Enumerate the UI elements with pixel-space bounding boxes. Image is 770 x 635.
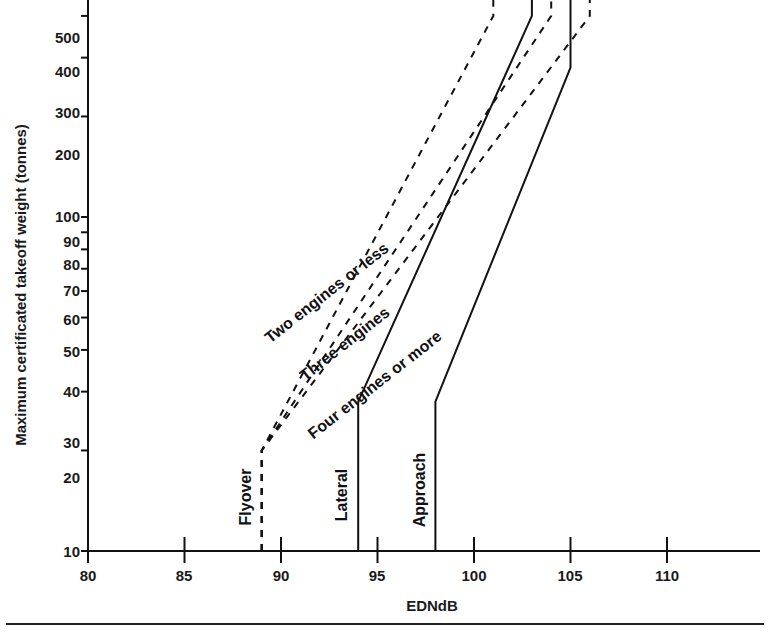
x-tick-label-110: 110 — [655, 567, 679, 584]
y-tick-label-400: 400 — [55, 63, 80, 80]
x-axis-title: EDNdB — [406, 597, 458, 614]
chart-figure: 500 400 300 200 100 90 80 70 60 50 40 30… — [0, 0, 770, 635]
y-tick-label-40: 40 — [63, 383, 80, 400]
y-tick-label-50: 50 — [63, 343, 80, 360]
x-tick-label-90: 90 — [273, 567, 290, 584]
y-tick-label-100: 100 — [55, 208, 80, 225]
annotation-lateral: Lateral — [333, 469, 350, 521]
x-tick-label-100: 100 — [461, 567, 486, 584]
y-tick-label-70: 70 — [63, 282, 80, 299]
y-tick-label-group: 500 400 300 200 100 90 80 70 60 50 40 30… — [55, 29, 80, 560]
y-tick-label-20: 20 — [63, 469, 80, 486]
y-axis-ticks — [81, 0, 88, 551]
y-tick-label-500: 500 — [55, 29, 80, 46]
curve-flyover-three-engines — [262, 0, 552, 551]
y-tick-label-90: 90 — [63, 233, 80, 250]
curve-lateral — [358, 0, 532, 551]
x-tick-label-80: 80 — [80, 567, 97, 584]
x-tick-label-85: 85 — [176, 567, 193, 584]
y-tick-label-200: 200 — [55, 146, 80, 163]
y-axis-title: Maximum certificated takeoff weight (ton… — [12, 124, 29, 446]
chart-canvas: 500 400 300 200 100 90 80 70 60 50 40 30… — [0, 0, 770, 635]
x-tick-label-group: 80 85 90 95 100 105 110 — [80, 567, 679, 584]
y-tick-label-30: 30 — [63, 434, 80, 451]
curve-annotations: Two engines or less Three engines Four e… — [237, 239, 445, 527]
annotation-four-engines: Four engines or more — [305, 327, 445, 442]
annotation-approach: Approach — [411, 453, 428, 528]
x-tick-label-105: 105 — [557, 567, 582, 584]
y-tick-label-60: 60 — [63, 311, 80, 328]
y-tick-label-300: 300 — [55, 104, 80, 121]
curve-approach — [435, 0, 570, 551]
y-tick-label-80: 80 — [63, 256, 80, 273]
x-tick-label-95: 95 — [369, 567, 386, 584]
annotation-flyover: Flyover — [237, 469, 254, 526]
y-tick-label-10: 10 — [63, 543, 80, 560]
